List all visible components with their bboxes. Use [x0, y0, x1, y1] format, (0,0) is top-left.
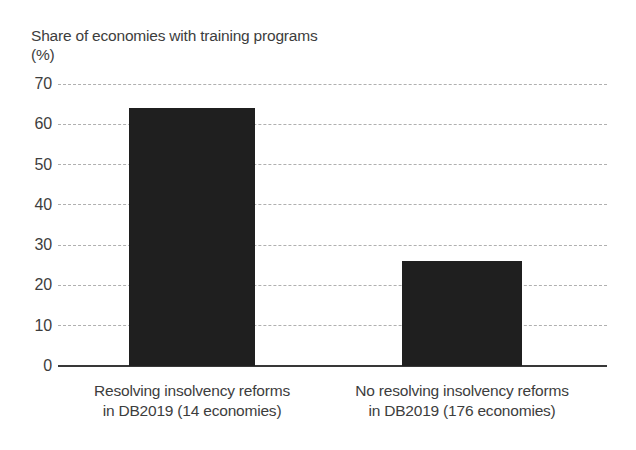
chart-title-block: Share of economies with training program…: [31, 26, 317, 64]
x-category-label-line: in DB2019 (14 economies): [67, 401, 317, 421]
chart-unit-label: (%): [31, 45, 317, 64]
y-tick-label-40: 40: [0, 196, 52, 214]
chart-title: Share of economies with training program…: [31, 26, 317, 45]
x-category-label-line: Resolving insolvency reforms: [67, 381, 317, 401]
bar-2: [402, 261, 522, 366]
x-category-label-line: No resolving insolvency reforms: [337, 381, 587, 401]
x-category-label-1: Resolving insolvency reformsin DB2019 (1…: [67, 381, 317, 421]
figure: Share of economies with training program…: [0, 0, 636, 450]
y-tick-label-10: 10: [0, 317, 52, 335]
y-tick-label-50: 50: [0, 156, 52, 174]
x-category-label-line: in DB2019 (176 economies): [337, 401, 587, 421]
y-tick-label-30: 30: [0, 236, 52, 254]
plot-area: [58, 84, 607, 366]
x-category-label-2: No resolving insolvency reformsin DB2019…: [337, 381, 587, 421]
gridline-70: [58, 84, 607, 85]
y-tick-label-70: 70: [0, 75, 52, 93]
bar-1: [129, 108, 255, 366]
y-tick-label-0: 0: [0, 357, 52, 375]
y-tick-label-20: 20: [0, 276, 52, 294]
y-tick-label-60: 60: [0, 115, 52, 133]
